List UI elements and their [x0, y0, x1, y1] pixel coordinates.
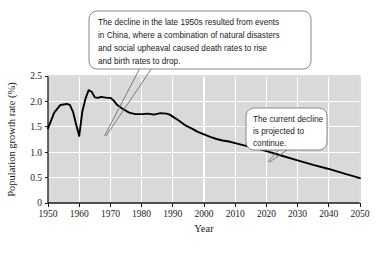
x-tick-2050: 2050 [351, 209, 370, 219]
y-tick-0: 0 [37, 198, 42, 208]
x-tick-2000: 2000 [195, 209, 214, 219]
annotation-china-line-3: and social upheaval caused death rates t… [98, 44, 267, 53]
x-axis-tick-labels: 1950196019701980199020002010202020302040… [39, 209, 370, 219]
annotation-current-line-2: is projected to [253, 127, 304, 136]
x-tick-2020: 2020 [257, 209, 276, 219]
x-tick-2010: 2010 [226, 209, 245, 219]
x-tick-1990: 1990 [163, 209, 182, 219]
x-tick-1970: 1970 [101, 209, 120, 219]
y-tick-1.5: 1.5 [30, 122, 42, 132]
annotation-china-line-2: in China, where a combination of natural… [98, 31, 280, 40]
x-tick-2030: 2030 [288, 209, 307, 219]
x-axis-title: Year [194, 223, 214, 234]
annotation-current-line-3: continue. [253, 139, 286, 148]
x-tick-1980: 1980 [132, 209, 151, 219]
x-tick-2040: 2040 [319, 209, 338, 219]
chart-figure: 00.51.01.52.02.5 19501960197019801990200… [0, 0, 377, 261]
annotation-china-line-4: and birth rates to drop. [98, 57, 180, 66]
y-axis-title: Population growth rate (%) [6, 82, 18, 197]
population-growth-rate-chart: 00.51.01.52.02.5 19501960197019801990200… [0, 0, 377, 261]
annotation-china-decline: The decline in the late 1950s resulted f… [89, 11, 311, 69]
y-tick-0.5: 0.5 [30, 173, 42, 183]
y-tick-1.0: 1.0 [30, 148, 42, 158]
annotation-current-decline: The current decline is projected to cont… [246, 108, 327, 150]
annotation-china-line-1: The decline in the late 1950s resulted f… [98, 18, 279, 27]
x-tick-1960: 1960 [70, 209, 89, 219]
y-tick-2.5: 2.5 [30, 71, 42, 81]
x-tick-1950: 1950 [39, 209, 58, 219]
y-tick-2.0: 2.0 [30, 97, 42, 107]
annotation-current-line-1: The current decline [253, 115, 324, 124]
